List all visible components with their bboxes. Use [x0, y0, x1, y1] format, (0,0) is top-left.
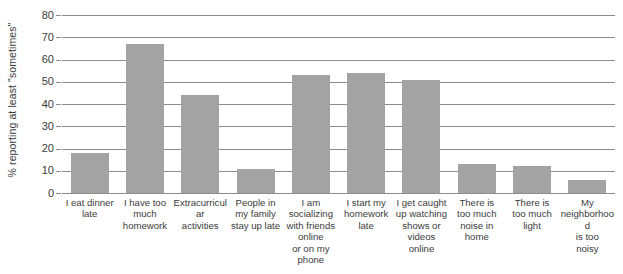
y-tick-mark-10: [56, 171, 61, 172]
bar: [181, 95, 219, 193]
bar: [71, 153, 109, 193]
y-tick-mark-20: [56, 149, 61, 150]
y-tick-label-0: 0: [24, 188, 54, 199]
x-tick-label: Myneighborhoodis toonoisy: [560, 197, 615, 254]
y-tick-mark-40: [56, 104, 61, 105]
y-axis-title: % reporting at least "sometimes": [0, 0, 24, 200]
y-tick-label-10: 10: [24, 165, 54, 176]
bar: [347, 73, 385, 193]
y-tick-mark-80: [56, 15, 61, 16]
bar: [126, 44, 164, 193]
x-axis-tick-labels: I eat dinnerlateI have toomuchhomeworkEx…: [62, 197, 615, 274]
x-tick-label: I amsocializingwith friendsonlineor on m…: [283, 197, 338, 265]
x-tick-label: There istoo muchnoise inhome: [449, 197, 504, 243]
x-tick-label: Extracurricularactivities: [173, 197, 228, 231]
bar: [402, 80, 440, 193]
y-tick-mark-50: [56, 82, 61, 83]
bar-chart: % reporting at least "sometimes" 0102030…: [0, 0, 623, 274]
y-tick-label-20: 20: [24, 143, 54, 154]
y-tick-label-40: 40: [24, 99, 54, 110]
y-tick-label-30: 30: [24, 121, 54, 132]
bar: [292, 75, 330, 193]
bar: [237, 169, 275, 193]
x-tick-label: I start myhomeworklate: [339, 197, 394, 231]
y-tick-label-50: 50: [24, 76, 54, 87]
x-tick-label: I have toomuchhomework: [117, 197, 172, 231]
bar: [513, 166, 551, 193]
y-tick-label-80: 80: [24, 10, 54, 21]
y-axis-tick-labels: 01020304050607080: [24, 0, 54, 200]
y-tick-mark-70: [56, 37, 61, 38]
y-tick-mark-60: [56, 60, 61, 61]
y-axis-title-text: % reporting at least "sometimes": [6, 23, 18, 178]
y-tick-label-60: 60: [24, 54, 54, 65]
bar: [458, 164, 496, 193]
gridline-80: [62, 15, 615, 16]
x-tick-label: I get caughtup watchingshows orvideos on…: [394, 197, 449, 254]
x-tick-label: There istoo muchlight: [504, 197, 559, 231]
y-tick-label-70: 70: [24, 32, 54, 43]
gridline-0: [62, 193, 615, 194]
x-tick-label: I eat dinnerlate: [62, 197, 117, 220]
y-tick-mark-30: [56, 126, 61, 127]
y-tick-mark-0: [56, 193, 61, 194]
gridline-70: [62, 37, 615, 38]
bar: [568, 180, 606, 193]
plot-area: [62, 15, 615, 193]
x-tick-label: People inmy familystay up late: [228, 197, 283, 231]
